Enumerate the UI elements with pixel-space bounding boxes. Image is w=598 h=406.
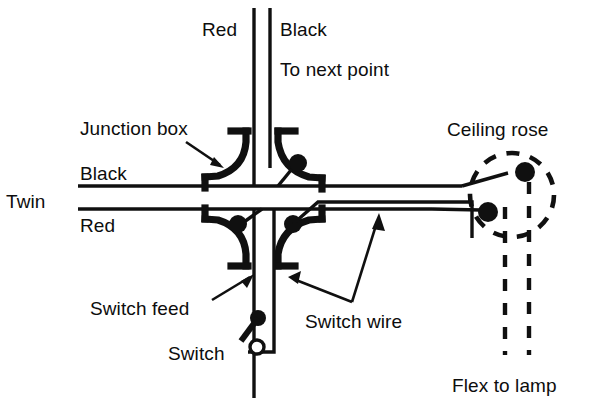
ceiling-rose-outline: [470, 153, 554, 237]
flex-to-lamp: [505, 182, 529, 355]
label-ceiling-rose: Ceiling rose: [447, 119, 549, 140]
ceiling-rose-terminal-upper: [515, 162, 535, 182]
switch-feed-pointer-head: [241, 274, 254, 288]
label-junction-box: Junction box: [80, 118, 188, 139]
label-to-next-point: To next point: [280, 59, 390, 80]
switch-wire-pointer-line-up: [352, 222, 377, 302]
junction-box-top-left-arc: [205, 131, 246, 177]
wiring-diagram-canvas: Red Black To next point Junction box Bla…: [0, 0, 598, 406]
label-black-top: Black: [280, 19, 327, 40]
ceiling-rose-lower-lead: [432, 209, 481, 210]
label-black-left: Black: [80, 163, 127, 184]
switch-wire-pointer-head-up: [372, 213, 385, 231]
label-switch-feed: Switch feed: [90, 298, 189, 319]
switch-wire-pointer: [288, 213, 385, 302]
junction-box-top-right: [278, 131, 322, 189]
label-red-top: Red: [202, 19, 237, 40]
switch-feed-pointer: [212, 274, 254, 300]
label-switch: Switch: [168, 343, 225, 364]
label-twin: Twin: [6, 191, 45, 212]
twin-conductors-group: [78, 186, 462, 209]
label-switch-wire: Switch wire: [305, 311, 402, 332]
junction-box-bottom-left-node: [229, 215, 247, 233]
ceiling-rose-terminal-lower: [478, 202, 498, 222]
label-red-left: Red: [80, 215, 115, 236]
switch-drop-group: [248, 209, 274, 398]
ceiling-rose-upper-lead: [462, 173, 508, 186]
junction-box-top-right-node: [289, 154, 307, 172]
top-conductors-group: [254, 8, 270, 186]
switch-wire-pointer-line-left: [296, 280, 352, 302]
junction-box-pointer: [186, 142, 224, 168]
label-flex-to-lamp: Flex to lamp: [452, 375, 557, 396]
switch-contact-terminal: [250, 340, 264, 354]
wiring-diagram: Red Black To next point Junction box Bla…: [0, 0, 598, 406]
ceiling-rose: [432, 153, 554, 237]
